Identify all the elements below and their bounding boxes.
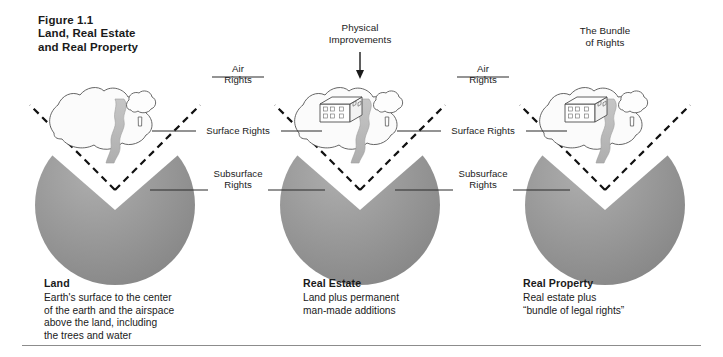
- label-surface-rights-1: Surface Rights: [194, 125, 282, 136]
- physical-improvements-arrow: [356, 52, 364, 79]
- building-real-property: [565, 97, 607, 122]
- panel-land: [30, 88, 200, 285]
- caption-real-property-title: Real Property: [523, 277, 723, 290]
- caption-real-property: Real Property Real estate plus “bundle o…: [523, 277, 723, 317]
- panel-real-property: [520, 88, 690, 285]
- label-bundle-of-rights: The Bundle of Rights: [555, 25, 655, 48]
- panel-real-estate: [275, 88, 445, 285]
- label-surface-rights-2: Surface Rights: [439, 125, 527, 136]
- caption-real-estate-title: Real Estate: [303, 277, 518, 290]
- figure-container: Figure 1.1 Land, Real Estate and Real Pr…: [0, 0, 723, 357]
- caption-real-property-body: Real estate plus “bundle of legal rights…: [523, 292, 723, 317]
- caption-real-estate: Real Estate Land plus permanent man-made…: [303, 277, 518, 317]
- bottom-divider: [22, 345, 701, 346]
- label-subsurface-rights-2: Subsurface Rights: [451, 168, 515, 190]
- label-air-rights-2: Air Rights: [453, 63, 513, 85]
- caption-real-estate-body: Land plus permanent man-made additions: [303, 292, 518, 317]
- label-air-rights-1: Air Rights: [208, 63, 268, 85]
- caption-land-body: Earth's surface to the center of the ear…: [44, 292, 259, 342]
- caption-land: Land Earth's surface to the center of th…: [44, 277, 259, 342]
- caption-land-title: Land: [44, 277, 259, 290]
- label-physical-improvements: Physical Improvements: [310, 22, 410, 45]
- building-real-estate: [320, 97, 362, 122]
- label-subsurface-rights-1: Subsurface Rights: [206, 168, 270, 190]
